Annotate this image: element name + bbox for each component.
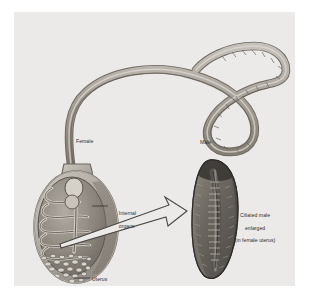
label-ciliated-male: Ciliated male enlarged (in female uterus… bbox=[226, 206, 275, 249]
label-ciliated-line3: (in female uterus) bbox=[235, 237, 276, 243]
label-ciliated-line2: enlarged bbox=[245, 225, 265, 231]
label-female: Female bbox=[76, 138, 93, 144]
label-ciliated-line1: Ciliated male bbox=[240, 212, 270, 218]
figure-root: Female Male Internal organs Uterus Cilia… bbox=[0, 0, 309, 304]
female-body-sac bbox=[34, 164, 118, 284]
label-internal-organs: Internal organs bbox=[110, 204, 136, 235]
label-uterus: Uterus bbox=[92, 276, 107, 282]
illustration-plate: Female Male Internal organs Uterus Cilia… bbox=[14, 12, 295, 286]
female-worm-tail bbox=[69, 46, 286, 172]
label-internal-organs-line1: Internal bbox=[119, 210, 136, 216]
label-internal-organs-line2: organs bbox=[119, 223, 135, 229]
label-male: Male bbox=[200, 139, 211, 145]
